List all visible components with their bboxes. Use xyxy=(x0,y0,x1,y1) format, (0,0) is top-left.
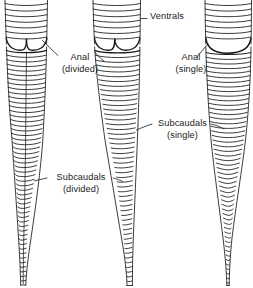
left-tail-specimen xyxy=(5,0,48,285)
label-ventrals: Ventrals xyxy=(150,11,184,23)
label-anal-divided: Anal (divided) xyxy=(52,52,108,75)
right-tail-specimen xyxy=(205,0,252,286)
right-subcaudal-scales-single xyxy=(206,57,251,283)
left-ventral-scales xyxy=(5,4,47,39)
label-subcaudals-divided: Subcaudals (divided) xyxy=(49,172,113,195)
leader-subcaudals-single-middle xyxy=(137,124,153,130)
label-ventrals-line1: Ventrals xyxy=(150,11,184,21)
label-anal-divided-line2: (divided) xyxy=(52,64,108,76)
snake-tail-scale-figure: Ventrals Anal (divided) Anal (single) Su… xyxy=(0,0,253,288)
label-subcaudals-single-line1: Subcaudals xyxy=(158,118,207,128)
middle-tail-specimen xyxy=(93,0,141,286)
label-anal-single-line2: (single) xyxy=(165,64,217,76)
leader-subcaudals-divided-left xyxy=(35,178,48,181)
right-anal-plate-single xyxy=(206,38,251,53)
leader-subcaudals-divided-middle xyxy=(113,178,123,182)
label-anal-single-line1: Anal xyxy=(182,52,201,62)
middle-ventral-scales xyxy=(93,4,140,39)
label-anal-single: Anal (single) xyxy=(165,52,217,75)
illustration-canvas xyxy=(0,0,253,288)
label-subcaudals-divided-line1: Subcaudals xyxy=(56,172,105,182)
label-subcaudals-single: Subcaudals (single) xyxy=(153,118,212,141)
right-ventral-scales xyxy=(205,4,251,39)
label-anal-divided-line1: Anal xyxy=(71,52,90,62)
label-subcaudals-single-line2: (single) xyxy=(153,130,212,142)
left-anal-plate-divided xyxy=(6,38,47,50)
label-subcaudals-divided-line2: (divided) xyxy=(49,184,113,196)
middle-anal-plate-divided xyxy=(95,38,140,50)
